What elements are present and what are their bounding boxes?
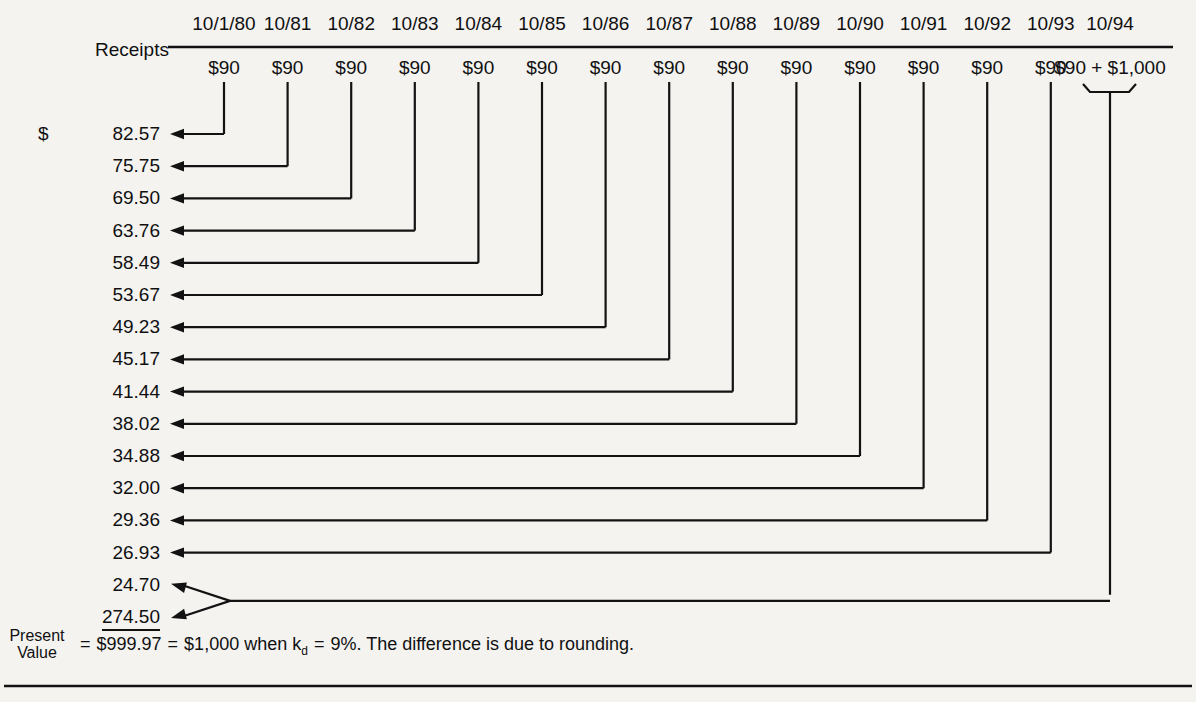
present-value-row-15: 24.70	[40, 575, 160, 594]
connector-arrowhead-10	[170, 419, 184, 429]
discount-rate-subscript: d	[301, 644, 308, 658]
summary-equation: =$999.97=$1,000 when kd=9%. The differen…	[74, 634, 634, 658]
present-value-amount-6: 53.67	[112, 284, 160, 305]
total-present-value: $999.97	[97, 634, 162, 654]
present-value-row-3: 69.50	[40, 188, 160, 207]
present-value-row-6: 53.67	[40, 285, 160, 304]
present-value-amount-5: 58.49	[112, 252, 160, 273]
present-value-row-11: 34.88	[40, 446, 160, 465]
connector-arrowhead-5	[170, 258, 184, 268]
equals-sign-2: =	[162, 634, 185, 655]
present-value-caption-line2: Value	[4, 645, 70, 662]
connector-arrowhead-3	[170, 193, 184, 203]
present-value-row-1: 82.57	[40, 124, 160, 143]
present-value-row-14: 26.93	[40, 543, 160, 562]
fork-branch-lower	[184, 601, 230, 616]
present-value-amount-3: 69.50	[112, 187, 160, 208]
receipts-row-label: Receipts	[95, 40, 169, 59]
column-header-10-94: 10/94	[1030, 14, 1190, 33]
fork-branch-upper	[184, 586, 230, 601]
present-value-row-5: 58.49	[40, 253, 160, 272]
final-payment-brace	[1083, 84, 1136, 92]
connector-arrowhead-9	[170, 386, 184, 396]
timeline-vector-layer	[0, 0, 1196, 702]
connector-arrowhead-6	[170, 290, 184, 300]
present-value-row-10: 38.02	[40, 414, 160, 433]
discount-rate-symbol: kd	[292, 634, 308, 654]
present-value-amount-15: 24.70	[112, 574, 160, 595]
connector-arrowhead-12	[170, 483, 184, 493]
connector-arrowhead-1	[170, 129, 184, 139]
present-value-amount-10: 38.02	[112, 413, 160, 434]
connector-arrowhead-4	[170, 225, 184, 235]
discount-rate-value: 9%.	[330, 634, 361, 654]
present-value-amount-11: 34.88	[112, 445, 160, 466]
present-value-amount-7: 49.23	[112, 316, 160, 337]
present-value-row-9: 41.44	[40, 382, 160, 401]
present-value-amount-2: 75.75	[112, 155, 160, 176]
present-value-amount-1: 82.57	[112, 123, 160, 144]
connector-arrowhead-2	[170, 161, 184, 171]
connector-arrowhead-8	[170, 354, 184, 364]
present-value-caption-line1: Present	[4, 628, 70, 645]
equals-sign-1: =	[74, 634, 97, 655]
present-value-amount-13: 29.36	[112, 509, 160, 530]
connector-arrowhead-13	[170, 515, 184, 525]
present-value-amount-16: 274.50	[102, 606, 160, 631]
present-value-timeline-figure: Receipts 10/1/8010/8110/8210/8310/8410/8…	[0, 0, 1196, 702]
present-value-amount-14: 26.93	[112, 542, 160, 563]
present-value-row-7: 49.23	[40, 317, 160, 336]
present-value-row-13: 29.36	[40, 510, 160, 529]
connector-arrowhead-14	[170, 547, 184, 557]
present-value-caption: Present Value	[4, 628, 70, 662]
when-word: when	[244, 634, 287, 654]
connector-arrowhead-11	[170, 451, 184, 461]
equals-sign-3: =	[308, 634, 331, 655]
fork-arrowhead-lower	[171, 609, 187, 619]
present-value-amount-12: 32.00	[112, 477, 160, 498]
connector-arrowhead-7	[170, 322, 184, 332]
present-value-row-16: 274.50	[40, 607, 160, 626]
present-value-row-2: 75.75	[40, 156, 160, 175]
present-value-amount-9: 41.44	[112, 381, 160, 402]
present-value-row-4: 63.76	[40, 221, 160, 240]
present-value-row-12: 32.00	[40, 478, 160, 497]
present-value-amount-4: 63.76	[112, 220, 160, 241]
rounded-total: $1,000	[184, 634, 239, 654]
column-amount-10-94: $90 + $1,000	[1000, 58, 1196, 77]
present-value-amount-8: 45.17	[112, 348, 160, 369]
fork-arrowhead-upper	[171, 583, 187, 593]
rounding-note: The difference is due to rounding.	[366, 634, 634, 654]
present-value-row-8: 45.17	[40, 349, 160, 368]
